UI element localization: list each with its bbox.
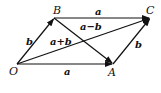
vector-label-AC: b <box>135 40 142 50</box>
vector-label-BA: a−b <box>80 22 102 32</box>
vector-label-OB: b <box>26 37 33 47</box>
vector-AC <box>113 19 150 64</box>
vector-label-BC: a <box>95 7 101 17</box>
point-label-A: A <box>108 67 116 78</box>
point-label-B: B <box>53 5 61 16</box>
vector-label-OA: a <box>64 67 70 77</box>
point-label-O: O <box>9 66 18 77</box>
vector-parallelogram-diagram: O A B C a a b b a+b a−b <box>0 0 161 93</box>
vector-label-OC: a+b <box>50 37 72 47</box>
point-label-C: C <box>146 5 154 16</box>
